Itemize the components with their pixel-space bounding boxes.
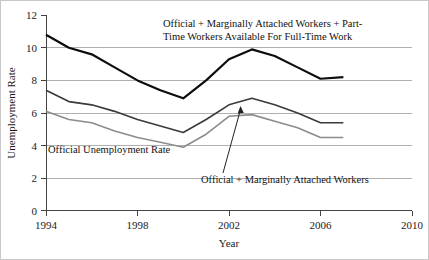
y-tick-label-6: 6 bbox=[32, 107, 38, 119]
series-line-u6 bbox=[46, 35, 343, 99]
series-line-u3 bbox=[46, 111, 343, 147]
y-axis-title: Unemployment Rate bbox=[5, 67, 17, 158]
x-tick-label-2010: 2010 bbox=[401, 219, 424, 231]
chart-canvas: 12 10 8 6 4 2 0 1994 1998 2002 2006 2010… bbox=[1, 1, 429, 260]
annotation-u5-label: Official + Marginally Attached Workers bbox=[201, 174, 369, 185]
x-axis-ticks bbox=[46, 211, 412, 216]
annotation-u3-label: Official Unemployment Rate bbox=[48, 144, 171, 155]
y-tick-label-0: 0 bbox=[32, 205, 38, 217]
annotation-u6-line2: Time Workers Available For Full-Time Wor… bbox=[163, 31, 353, 42]
x-axis-tick-labels: 1994 1998 2002 2006 2010 bbox=[35, 219, 424, 231]
y-tick-label-4: 4 bbox=[32, 140, 38, 152]
y-axis-tick-labels: 12 10 8 6 4 2 0 bbox=[26, 9, 38, 217]
unemployment-rate-line-chart: 12 10 8 6 4 2 0 1994 1998 2002 2006 2010… bbox=[0, 0, 429, 260]
annotation-u6: Official + Marginally Attached Workers +… bbox=[163, 18, 363, 42]
y-tick-label-8: 8 bbox=[32, 74, 38, 86]
y-axis-ticks bbox=[41, 15, 46, 211]
annotation-u5-arrowhead-icon bbox=[238, 106, 244, 114]
x-tick-label-1998: 1998 bbox=[127, 219, 150, 231]
annotation-u6-line1: Official + Marginally Attached Workers +… bbox=[163, 18, 363, 29]
gridlines bbox=[46, 48, 412, 178]
x-tick-label-2006: 2006 bbox=[310, 219, 333, 231]
y-tick-label-2: 2 bbox=[32, 172, 38, 184]
series-layer bbox=[46, 35, 343, 147]
x-tick-label-1994: 1994 bbox=[35, 219, 58, 231]
x-tick-label-2002: 2002 bbox=[218, 219, 240, 231]
y-tick-label-12: 12 bbox=[26, 9, 37, 21]
series-line-u5 bbox=[46, 90, 343, 132]
annotation-u3: Official Unemployment Rate bbox=[48, 144, 171, 155]
x-axis-title: Year bbox=[219, 237, 240, 249]
y-tick-label-10: 10 bbox=[26, 42, 38, 54]
